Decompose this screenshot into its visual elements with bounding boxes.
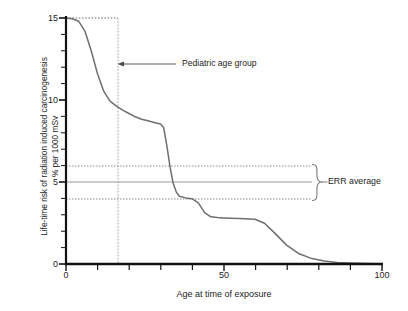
brace-icon	[313, 165, 323, 201]
data-line	[66, 18, 382, 264]
reference-lines	[66, 18, 312, 264]
arrow-left-icon	[118, 62, 125, 67]
plot-canvas	[0, 0, 408, 311]
axis-spines	[65, 16, 383, 264]
chart-figure: Life-time risk of radiation induced carc…	[0, 0, 408, 311]
data-series-lifetime-risk	[66, 18, 382, 264]
err-average-brace	[313, 165, 328, 201]
annotation-pediatric-leader	[118, 62, 177, 67]
